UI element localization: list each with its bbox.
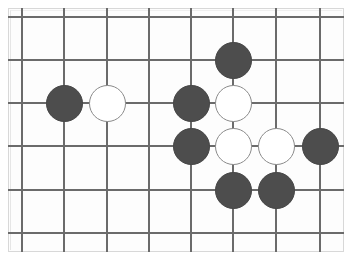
black-stone-7[interactable] [258, 172, 295, 209]
black-stone-1[interactable] [46, 85, 83, 122]
white-stone-3[interactable] [215, 128, 252, 165]
black-stone-3[interactable] [173, 85, 210, 122]
white-stone-1[interactable] [89, 85, 126, 122]
go-diagram-root [0, 0, 354, 260]
black-stone-2[interactable] [215, 42, 252, 79]
black-stone-4[interactable] [173, 128, 210, 165]
black-stone-5[interactable] [302, 128, 339, 165]
stone-layer [0, 0, 354, 260]
white-stone-4[interactable] [258, 128, 295, 165]
white-stone-2[interactable] [215, 85, 252, 122]
black-stone-6[interactable] [215, 172, 252, 209]
